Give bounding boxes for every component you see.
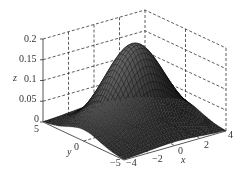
surface-plot-canvas — [0, 0, 251, 175]
x-tick-label: 4 — [228, 130, 233, 140]
x-tick-label: −2 — [152, 154, 163, 164]
y-tick-label: −5 — [110, 158, 121, 168]
x-tick-label: −4 — [126, 158, 137, 168]
z-axis-label: z — [13, 73, 17, 83]
z-tick-label: 0.2 — [24, 34, 37, 44]
y-axis-label: y — [67, 147, 71, 157]
y-tick-label: 0 — [74, 142, 79, 152]
x-tick-label: 0 — [178, 146, 183, 156]
z-tick-label: 0.05 — [19, 94, 37, 104]
x-axis-label: x — [181, 155, 185, 165]
z-tick-label: 0.15 — [19, 54, 37, 64]
x-tick-label: 2 — [204, 140, 209, 150]
y-tick-label: 5 — [34, 124, 39, 134]
z-tick-label: 0.1 — [24, 74, 37, 84]
